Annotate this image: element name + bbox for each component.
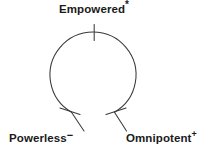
node-label-omnipotent-superscript: + [192, 129, 197, 139]
node-label-omnipotent: Omnipotent+ [126, 132, 197, 145]
node-label-empowered-superscript: * [125, 0, 129, 10]
node-label-powerless-text: Powerless [9, 132, 67, 144]
node-label-omnipotent-text: Omnipotent [126, 132, 192, 144]
node-label-empowered: Empowered* [59, 3, 129, 16]
arc-path [50, 32, 136, 112]
tick-right-end-icon [106, 108, 126, 115]
node-label-powerless: Powerless− [9, 132, 73, 145]
tick-left-end-icon [60, 108, 80, 115]
node-label-empowered-text: Empowered [59, 3, 125, 15]
power-continuum-diagram: Empowered* Powerless− Omnipotent+ [0, 0, 214, 153]
arc-tail-left [72, 112, 85, 131]
node-label-powerless-superscript: − [67, 129, 74, 141]
arc-tail-right [115, 112, 127, 131]
continuum-arc-graphic [0, 0, 214, 153]
